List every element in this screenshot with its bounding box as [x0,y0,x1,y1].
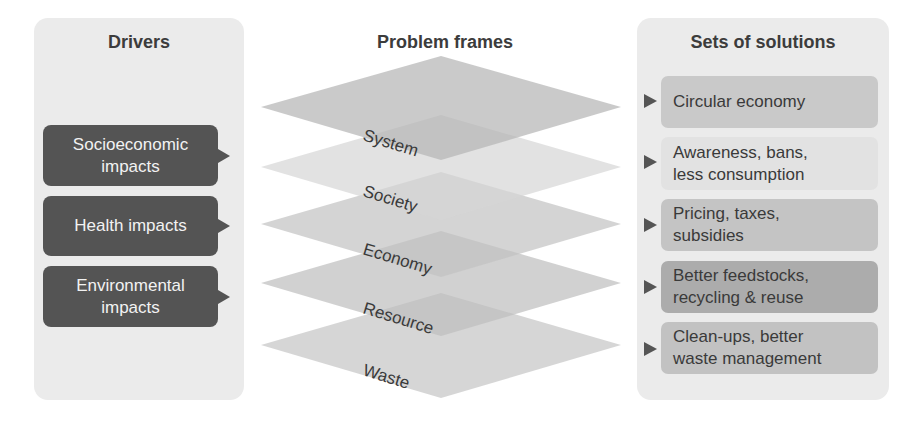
solution-awareness-bans: Awareness, bans, less consumption [661,137,878,190]
solution-clean-ups: Clean-ups, better waste management [661,322,878,374]
solution-pricing-taxes: Pricing, taxes, subsidies [661,199,878,251]
solution-label-line2: waste management [673,348,821,370]
solution-label-line2: recycling & reuse [673,287,809,309]
solution-better-feedstocks: Better feedstocks, recycling & reuse [661,261,878,313]
arrow-right-icon [644,94,657,108]
solution-label-line1: Better feedstocks, [673,265,809,287]
solution-label-line1: Awareness, bans, [673,142,808,164]
arrow-right-icon [644,342,657,356]
solution-label-line2: subsidies [673,225,780,247]
arrow-right-icon [644,218,657,232]
layer-system [261,56,621,160]
solution-label-line1: Clean-ups, better [673,326,821,348]
solutions-heading: Sets of solutions [637,32,889,53]
arrow-right-icon [644,155,657,169]
solution-label-line1: Pricing, taxes, [673,203,780,225]
solution-circular-economy: Circular economy [661,76,878,128]
solution-label-line1: Circular economy [673,91,805,113]
arrow-right-icon [644,280,657,294]
solution-label-line2: less consumption [673,164,808,186]
